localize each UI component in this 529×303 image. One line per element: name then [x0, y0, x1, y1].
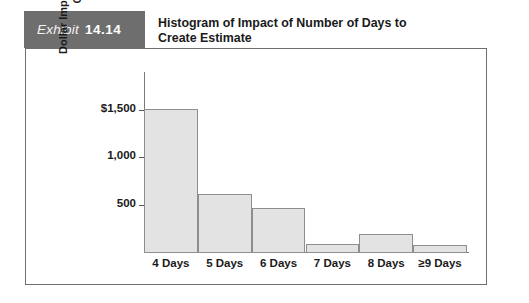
x-label-4: 8 Days — [359, 257, 413, 269]
y-axis-title-line-2: Create Estimate — [70, 0, 84, 4]
exhibit-tag: Exhibit 14.14 — [24, 11, 145, 48]
y-tick-label: $1,500 — [101, 102, 136, 114]
bar--9-days — [413, 245, 467, 253]
exhibit-title: Histogram of Impact of Number of Days to… — [145, 11, 487, 48]
x-label-1: 5 Days — [198, 257, 252, 269]
bar-4-days — [144, 109, 198, 253]
plot-area: 5001,000$1,500 4 Days5 Days6 Days7 Days8… — [144, 72, 467, 253]
exhibit-title-line-1: Histogram of Impact of Number of Days to — [158, 16, 487, 31]
x-label-5: ≥9 Days — [413, 257, 467, 269]
x-label-2: 6 Days — [252, 257, 306, 269]
exhibit-label: Exhibit — [37, 22, 79, 37]
bar-5-days — [198, 194, 252, 253]
y-tick-label: 500 — [117, 197, 136, 209]
exhibit-number: 14.14 — [85, 22, 121, 37]
exhibit-title-line-2: Create Estimate — [158, 31, 487, 46]
bar-8-days — [359, 234, 413, 253]
x-label-0: 4 Days — [144, 257, 198, 269]
exhibit-header: Exhibit 14.14 Histogram of Impact of Num… — [24, 11, 487, 48]
bar-7-days — [306, 244, 360, 253]
bar-6-days — [252, 208, 306, 253]
x-label-3: 7 Days — [306, 257, 360, 269]
y-tick-label: 1,000 — [107, 149, 136, 161]
